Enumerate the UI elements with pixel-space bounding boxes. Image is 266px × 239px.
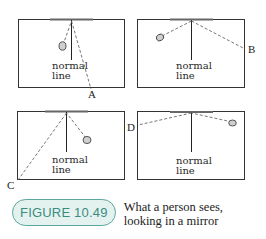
incident-ray [162, 21, 192, 36]
caption-line-1: What a person sees, [124, 200, 223, 214]
caption-text: What a person sees, looking in a mirror [124, 200, 223, 228]
line-label: line [176, 70, 195, 81]
point-label-b: B [248, 43, 255, 55]
incident-ray [63, 21, 72, 45]
point-label-a: A [88, 88, 96, 100]
object-dot [229, 120, 237, 126]
object-dot [59, 42, 66, 50]
incident-ray [192, 113, 233, 122]
incident-ray [67, 113, 87, 138]
object-dot [83, 136, 91, 143]
panel-b: normal line B [138, 20, 256, 88]
panel-c: normal line C [7, 112, 125, 192]
panel-a: normal line A [19, 20, 125, 101]
figure-caption: FIGURE 10.49 What a person sees, looking… [12, 199, 223, 228]
reflected-ray [138, 113, 192, 125]
room-box [18, 112, 125, 180]
point-label-c: C [7, 179, 14, 191]
reflected-ray [192, 21, 246, 49]
caption-line-2: looking in a mirror [124, 214, 223, 228]
figure-number-badge: FIGURE 10.49 [12, 199, 116, 226]
object-dot [155, 33, 165, 42]
point-label-d: D [127, 121, 135, 133]
line-label: line [52, 70, 71, 81]
line-label: line [52, 164, 71, 175]
reflected-ray [72, 21, 92, 89]
panel-d: normal line D [127, 112, 245, 180]
line-label: line [176, 165, 195, 176]
